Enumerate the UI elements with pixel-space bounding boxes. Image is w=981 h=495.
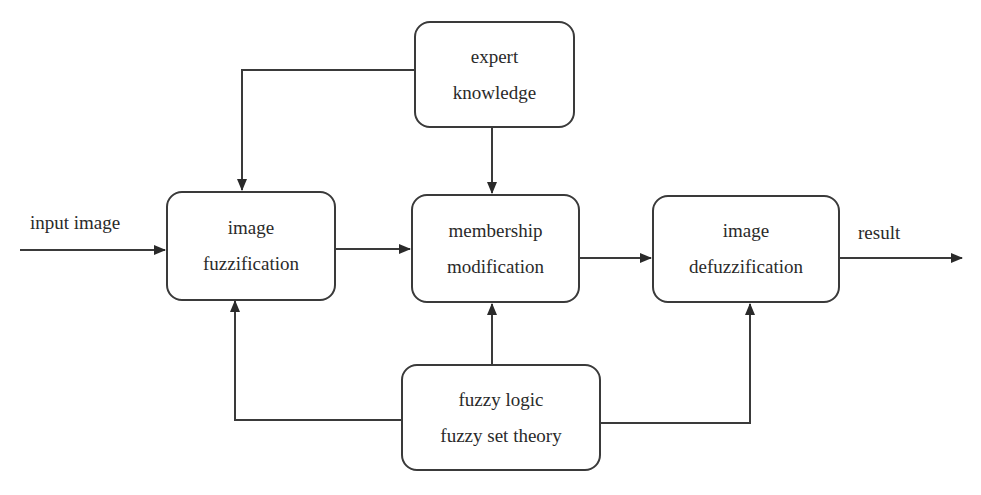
box-line: membership xyxy=(449,213,543,249)
image-defuzzification-box: image defuzzification xyxy=(652,195,840,303)
expert-knowledge-box: expert knowledge xyxy=(414,21,575,128)
box-line: image xyxy=(228,210,274,246)
box-line: image xyxy=(723,213,769,249)
box-line: fuzzification xyxy=(203,246,299,282)
box-line: modification xyxy=(447,249,544,285)
box-line: defuzzification xyxy=(689,249,803,285)
arrow-fuzzylogic-to-defuzzification xyxy=(601,304,750,423)
box-line: knowledge xyxy=(453,75,536,111)
box-line: expert xyxy=(471,39,518,75)
image-fuzzification-box: image fuzzification xyxy=(166,191,336,301)
box-line: fuzzy set theory xyxy=(440,418,561,454)
arrow-fuzzylogic-to-fuzzification xyxy=(235,301,401,420)
membership-modification-box: membership modification xyxy=(411,194,580,303)
fuzzy-logic-box: fuzzy logic fuzzy set theory xyxy=(401,364,601,471)
result-label: result xyxy=(858,222,900,244)
arrow-expert-to-fuzzification xyxy=(242,70,414,190)
box-line: fuzzy logic xyxy=(459,382,544,418)
input-image-label: input image xyxy=(30,212,120,234)
